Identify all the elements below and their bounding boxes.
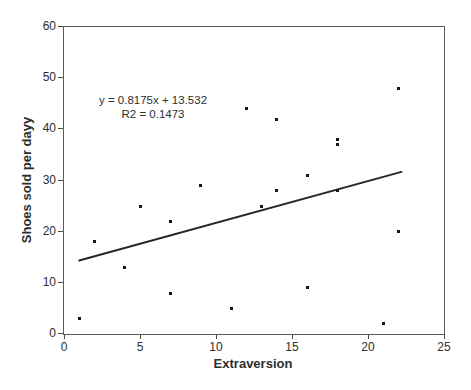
x-tick-label: 15 — [277, 341, 307, 353]
y-axis-title: Shoes sold per dayy — [19, 110, 35, 250]
data-point — [123, 266, 126, 269]
x-tick-mark — [64, 334, 65, 339]
data-point — [336, 138, 339, 141]
x-tick-label: 0 — [49, 341, 79, 353]
y-tick-mark — [58, 77, 63, 78]
data-point — [397, 87, 400, 90]
data-point — [78, 317, 81, 320]
data-point — [306, 286, 309, 289]
data-point — [199, 184, 202, 187]
y-tick-mark — [58, 26, 63, 27]
data-point — [336, 143, 339, 146]
y-tick-label: 50 — [22, 71, 56, 83]
data-point — [245, 107, 248, 110]
x-tick-mark — [140, 334, 141, 339]
data-point — [306, 174, 309, 177]
x-tick-mark — [368, 334, 369, 339]
y-tick-label: 0 — [22, 327, 56, 339]
y-tick-label: 10 — [22, 276, 56, 288]
data-point — [382, 322, 385, 325]
data-point — [139, 205, 142, 208]
y-tick-label: 60 — [22, 20, 56, 32]
data-point — [169, 292, 172, 295]
data-point — [336, 189, 339, 192]
data-point — [397, 230, 400, 233]
x-tick-label: 20 — [353, 341, 383, 353]
x-tick-label: 5 — [125, 341, 155, 353]
r-squared-line: R2 = 0.1473 — [86, 107, 220, 121]
data-point — [260, 205, 263, 208]
x-axis-title: Extraversion — [63, 356, 443, 371]
data-point — [275, 118, 278, 121]
y-tick-mark — [58, 333, 63, 334]
equation-line: y = 0.8175x + 13.532 — [86, 93, 220, 107]
y-tick-mark — [58, 180, 63, 181]
data-point — [275, 189, 278, 192]
x-tick-mark — [292, 334, 293, 339]
data-point — [93, 240, 96, 243]
trendline-svg — [64, 27, 444, 334]
data-point — [230, 307, 233, 310]
x-tick-mark — [216, 334, 217, 339]
plot-area: y = 0.8175x + 13.532 R2 = 0.1473 — [63, 26, 445, 335]
x-tick-label: 10 — [201, 341, 231, 353]
trendline-equation: y = 0.8175x + 13.532 R2 = 0.1473 — [86, 93, 220, 121]
y-tick-mark — [58, 282, 63, 283]
y-tick-mark — [58, 128, 63, 129]
x-tick-label: 25 — [429, 341, 459, 353]
x-tick-mark — [444, 334, 445, 339]
trendline — [79, 172, 401, 261]
y-tick-mark — [58, 231, 63, 232]
scatter-chart-figure: y = 0.8175x + 13.532 R2 = 0.1473 0102030… — [0, 0, 471, 390]
data-point — [169, 220, 172, 223]
